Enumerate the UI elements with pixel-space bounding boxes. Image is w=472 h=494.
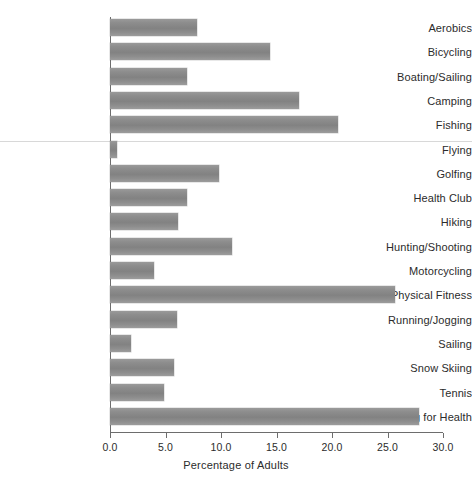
bar <box>110 19 197 36</box>
x-axis-tick <box>443 433 444 438</box>
bar <box>110 335 131 352</box>
category-label: Hunting/Shooting <box>368 239 472 256</box>
category-label: Tennis <box>368 385 472 402</box>
category-label: Boating/Sailing <box>368 69 472 86</box>
x-axis-tick-label: 15.0 <box>254 441 300 453</box>
category-label: Health Club <box>368 190 472 207</box>
bar <box>110 384 164 401</box>
category-label: Fishing <box>368 117 472 134</box>
x-axis-tick <box>110 433 111 438</box>
category-label: Camping <box>368 93 472 110</box>
bar <box>110 165 219 182</box>
bar <box>110 213 178 230</box>
bar <box>110 68 187 85</box>
x-axis-tick-label: 25.0 <box>365 441 411 453</box>
x-axis-tick-label: 0.0 <box>87 441 133 453</box>
x-axis-tick <box>166 433 167 438</box>
category-label: Running/Jogging <box>368 312 472 329</box>
bar <box>110 141 117 158</box>
category-label: Motorcycling <box>368 263 472 280</box>
bar <box>110 43 270 60</box>
x-axis-title: Percentage of Adults <box>0 459 472 471</box>
bar <box>110 116 338 133</box>
bar <box>110 262 154 279</box>
bar <box>110 286 395 303</box>
x-axis-tick-label: 30.0 <box>420 441 466 453</box>
category-label: Hiking <box>368 214 472 231</box>
x-axis-tick-label: 5.0 <box>143 441 189 453</box>
bar <box>110 408 419 425</box>
x-axis-tick-label: 10.0 <box>198 441 244 453</box>
category-label: Bicycling <box>368 44 472 61</box>
bar <box>110 189 187 206</box>
category-label: Sailing <box>368 336 472 353</box>
category-label: Aerobics <box>368 20 472 37</box>
category-label: Flying <box>368 142 472 159</box>
x-axis-tick <box>388 433 389 438</box>
bar <box>110 238 232 255</box>
x-axis-tick-label: 20.0 <box>309 441 355 453</box>
bar-chart: AerobicsBicyclingBoating/SailingCampingF… <box>0 0 472 494</box>
category-label: Golfing <box>368 166 472 183</box>
x-axis-tick <box>332 433 333 438</box>
bar <box>110 359 174 376</box>
bar <box>110 92 299 109</box>
category-label: Snow Skiing <box>368 360 472 377</box>
x-axis-tick <box>221 433 222 438</box>
bar <box>110 311 177 328</box>
plot-area: AerobicsBicyclingBoating/SailingCampingF… <box>0 0 472 494</box>
x-axis-tick <box>277 433 278 438</box>
